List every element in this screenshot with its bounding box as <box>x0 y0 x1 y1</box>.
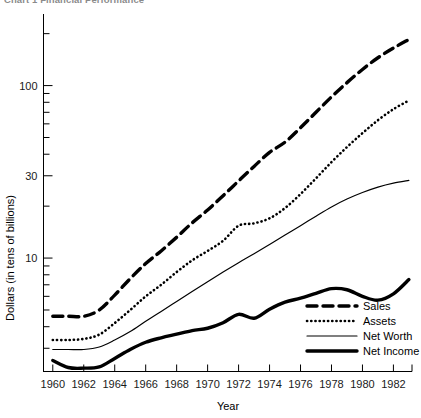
x-tick-label: 1970 <box>195 378 219 390</box>
legend-label-sales: Sales <box>363 300 391 312</box>
x-axis-title: Year <box>217 400 240 412</box>
financial-performance-chart: 1003010 19601962196419661968197019721974… <box>0 0 421 418</box>
x-tick-label: 1972 <box>226 378 250 390</box>
y-tick-label: 10 <box>25 252 37 264</box>
y-tick-label: 100 <box>19 80 37 92</box>
x-tick-label: 1976 <box>288 378 312 390</box>
x-tick-label: 1974 <box>257 378 281 390</box>
legend-label-net-worth: Net Worth <box>363 330 412 342</box>
x-tick-label: 1962 <box>72 378 96 390</box>
series-line-net-worth <box>53 180 409 349</box>
data-series-group <box>53 39 409 368</box>
x-axis-ticks <box>53 365 412 372</box>
y-axis-title: Dollars (in tens of billions) <box>4 195 16 321</box>
x-tick-label: 1978 <box>319 378 343 390</box>
series-line-sales <box>53 39 409 316</box>
legend-label-assets: Assets <box>363 315 397 327</box>
x-tick-label: 1982 <box>381 378 405 390</box>
x-tick-label: 1966 <box>133 378 157 390</box>
x-tick-label: 1964 <box>102 378 126 390</box>
chart-root: Chart 1 Financial Performance 1003010 19… <box>0 0 421 418</box>
chart-legend: SalesAssetsNet WorthNet Income <box>307 300 419 357</box>
x-tick-label: 1968 <box>164 378 188 390</box>
y-axis-tick-labels: 1003010 <box>19 80 37 264</box>
series-line-net-income <box>53 280 409 369</box>
y-axis-minor-ticks <box>44 34 50 349</box>
x-tick-label: 1980 <box>350 378 374 390</box>
legend-label-net-income: Net Income <box>363 345 419 357</box>
x-tick-label: 1960 <box>41 378 65 390</box>
y-tick-label: 30 <box>25 170 37 182</box>
x-axis-tick-labels: 1960196219641966196819701972197419761978… <box>41 378 406 390</box>
y-axis-major-ticks <box>44 86 53 258</box>
